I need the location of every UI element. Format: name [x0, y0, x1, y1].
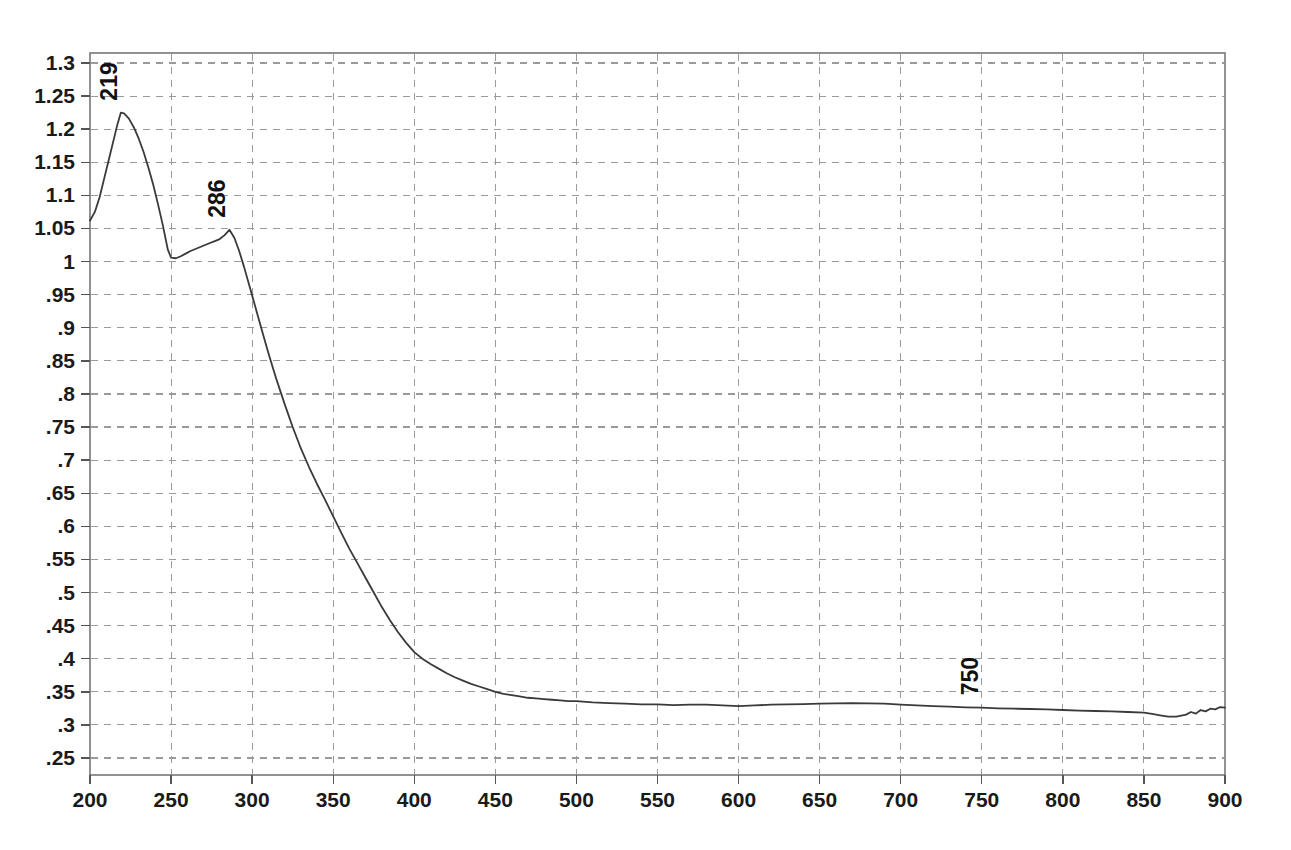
y-tick-label-.6: .6	[57, 514, 75, 537]
y-tick-label-.75: .75	[46, 415, 76, 438]
x-tick-label-700: 700	[883, 788, 918, 811]
y-tick-label-.3: .3	[57, 713, 75, 736]
peak-label-219: 219	[96, 62, 122, 100]
y-tick-label-1.3: 1.3	[46, 51, 75, 74]
x-tick-label-900: 900	[1207, 788, 1242, 811]
x-axis-tick-labels: 2002503003504004505005506006507007508008…	[72, 788, 1242, 811]
x-tick-label-300: 300	[235, 788, 270, 811]
x-tick-label-450: 450	[478, 788, 513, 811]
y-tick-label-.25: .25	[46, 746, 76, 769]
x-tick-label-500: 500	[559, 788, 594, 811]
y-tick-label-.85: .85	[46, 349, 76, 372]
y-tick-label-1.2: 1.2	[46, 117, 75, 140]
x-tick-label-850: 850	[1126, 788, 1161, 811]
y-tick-label-.7: .7	[57, 448, 75, 471]
x-tick-label-550: 550	[640, 788, 675, 811]
x-tick-label-350: 350	[316, 788, 351, 811]
x-tick-label-200: 200	[72, 788, 107, 811]
x-tick-label-600: 600	[721, 788, 756, 811]
chart-canvas: .25.3.35.4.45.5.55.6.65.7.75.8.85.9.9511…	[0, 0, 1291, 850]
peak-label-286: 286	[204, 179, 230, 217]
y-tick-label-.95: .95	[46, 283, 76, 306]
x-tick-label-400: 400	[397, 788, 432, 811]
y-tick-label-1.15: 1.15	[34, 150, 75, 173]
y-tick-label-.35: .35	[46, 680, 76, 703]
y-tick-label-.4: .4	[57, 647, 75, 670]
x-tick-label-250: 250	[154, 788, 189, 811]
x-tick-label-650: 650	[802, 788, 837, 811]
y-tick-label-.65: .65	[46, 481, 76, 504]
peak-label-750: 750	[957, 657, 983, 695]
y-tick-label-1: 1	[63, 250, 75, 273]
x-tick-label-750: 750	[964, 788, 999, 811]
y-tick-label-1.1: 1.1	[46, 183, 76, 206]
y-tick-label-.55: .55	[46, 547, 76, 570]
y-tick-label-.5: .5	[57, 581, 75, 604]
y-tick-label-1.05: 1.05	[34, 216, 75, 239]
y-tick-label-.9: .9	[57, 316, 75, 339]
y-tick-label-.45: .45	[46, 614, 76, 637]
y-tick-label-.8: .8	[57, 382, 75, 405]
y-tick-label-1.25: 1.25	[34, 84, 75, 107]
uv-vis-spectrum-chart: .25.3.35.4.45.5.55.6.65.7.75.8.85.9.9511…	[0, 0, 1291, 850]
x-tick-label-800: 800	[1045, 788, 1080, 811]
